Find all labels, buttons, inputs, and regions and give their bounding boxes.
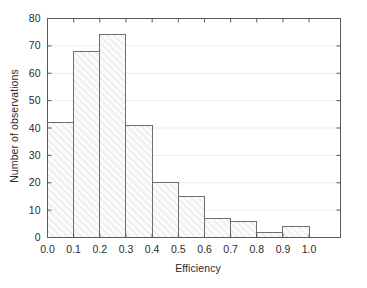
histogram-bar bbox=[178, 196, 204, 237]
histogram-bar bbox=[283, 227, 309, 238]
y-tick-label: 0 bbox=[15, 232, 41, 243]
x-tick-label: 1.0 bbox=[292, 244, 326, 255]
histogram-bar bbox=[231, 221, 257, 237]
y-tick-label: 80 bbox=[15, 13, 41, 24]
histogram-bar bbox=[100, 35, 126, 238]
histogram-bar bbox=[257, 232, 283, 237]
histogram-bar bbox=[204, 218, 230, 237]
histogram-bar bbox=[152, 183, 178, 238]
histogram-figure: 01020304050607080 0.00.10.20.30.40.50.60… bbox=[0, 0, 367, 288]
y-axis-title: Number of observations bbox=[8, 26, 20, 226]
histogram-bar bbox=[48, 123, 74, 238]
x-axis-title: Efficiency bbox=[48, 262, 348, 274]
histogram-bar bbox=[126, 125, 152, 237]
histogram-bar bbox=[74, 51, 100, 237]
histogram-bars bbox=[48, 35, 310, 238]
